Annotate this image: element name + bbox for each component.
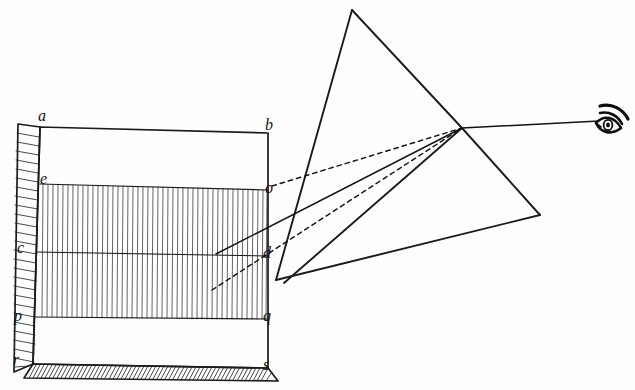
label-point-s: s (263, 357, 269, 373)
label-point-c: c (17, 240, 24, 256)
label-point-p: p (14, 308, 22, 324)
screen-vertical-hatch-band (42, 185, 267, 319)
prism-optics-figure: a b e o c d p q r s (0, 0, 635, 390)
label-point-o: o (265, 180, 273, 196)
screen-line-p-q (35, 317, 268, 319)
label-point-a: a (38, 108, 46, 124)
eye-pupil (606, 123, 610, 128)
label-point-q: q (263, 308, 271, 324)
label-point-b: b (265, 117, 273, 133)
screen-line-c-d (36, 252, 268, 256)
rays-group (212, 121, 599, 290)
screen-line-e-o (40, 184, 268, 190)
label-point-r: r (13, 352, 19, 368)
ray-to-eye (462, 121, 599, 128)
prism-edge-apex-to-bottom-left (276, 10, 352, 280)
prism-edge-bottom (276, 215, 540, 280)
label-point-e: e (40, 171, 47, 187)
prism-edge-mid-to-bottom-right (462, 128, 540, 215)
prism-group (276, 10, 540, 283)
label-point-d: d (263, 245, 271, 261)
figure-canvas (0, 0, 635, 390)
prism-edge-apex-to-mid (352, 10, 462, 128)
screen-group (14, 124, 278, 381)
eye-symbol (596, 105, 628, 132)
